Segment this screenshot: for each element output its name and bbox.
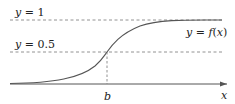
sigmoid-diagram: y = 1 y = 0.5 y = f(x) b x xyxy=(0,0,235,104)
label-y05: y = 0.5 xyxy=(14,38,55,51)
label-b: b xyxy=(104,90,111,103)
label-curve: y = f(x) xyxy=(185,26,227,39)
label-y1: y = 1 xyxy=(14,6,44,19)
label-x-axis: x xyxy=(221,89,228,102)
